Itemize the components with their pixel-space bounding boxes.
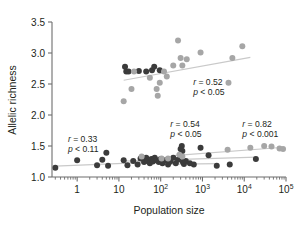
annotation-p-label: p < 0.001 [241, 129, 278, 139]
data-point [206, 152, 212, 158]
data-point [179, 62, 185, 68]
x-tick-label: 10 [113, 184, 125, 195]
data-point [94, 162, 100, 168]
y-tick-label: 2.0 [31, 110, 45, 121]
y-tick-label: 2.5 [31, 79, 45, 90]
y-tick-label: 3.5 [31, 17, 45, 28]
data-point [74, 157, 80, 163]
x-tick-labels: 110102103104105 [74, 183, 293, 195]
x-axis-title: Population size [133, 204, 204, 216]
data-point [165, 155, 171, 161]
data-point [99, 157, 105, 163]
data-point [227, 162, 233, 168]
x-tick-label: 102 [153, 183, 168, 195]
data-point [154, 86, 160, 92]
statistic-annotations-group: r = 0.33p < 0.11r = 0.54p < 0.05r = 0.82… [67, 77, 279, 153]
data-point [214, 163, 220, 169]
data-point [170, 62, 176, 68]
annotation-p-label: p < 0.05 [192, 87, 225, 97]
data-point [157, 80, 163, 86]
annotation-r-label: r = 0.82 [242, 119, 272, 129]
data-point [121, 98, 127, 104]
data-point [225, 80, 231, 86]
data-point [261, 143, 267, 149]
annotation-stat-upper: r = 0.52p < 0.05 [192, 77, 225, 97]
annotation-stat-left: r = 0.33p < 0.11 [67, 134, 99, 154]
data-point [131, 69, 137, 75]
data-point [253, 156, 259, 162]
series-upper-cluster-dark [122, 64, 163, 75]
scatter-plot-figure: 1.01.52.02.53.03.5 110102103104105 Allel… [0, 0, 296, 226]
data-point [105, 163, 111, 169]
data-point [121, 157, 127, 163]
data-point [178, 55, 184, 61]
annotation-r-label: r = 0.54 [170, 119, 200, 129]
x-tick-label: 1 [74, 184, 80, 195]
data-point [143, 69, 149, 75]
y-ticks-group [48, 22, 52, 177]
plot-canvas: 1.01.52.02.53.03.5 110102103104105 Allel… [0, 0, 296, 226]
y-tick-labels: 1.01.52.02.53.03.5 [31, 17, 45, 183]
data-point [52, 165, 58, 171]
x-tick-label: 105 [279, 183, 294, 195]
data-point [147, 75, 153, 81]
data-point [128, 86, 134, 92]
data-point [247, 145, 253, 151]
data-point [184, 56, 190, 62]
x-ticks-group [55, 177, 286, 182]
data-point [198, 49, 204, 55]
data-point [151, 64, 157, 70]
data-point [135, 162, 141, 168]
x-tick-label: 104 [237, 183, 252, 195]
data-point [179, 154, 185, 160]
annotation-p-label: p < 0.11 [67, 144, 99, 154]
annotation-p-label: p < 0.05 [169, 129, 202, 139]
data-point [280, 146, 286, 152]
y-tick-label: 3.0 [31, 48, 45, 59]
data-point [159, 155, 165, 161]
data-point [198, 145, 204, 151]
data-point [124, 162, 130, 168]
y-tick-label: 1.5 [31, 141, 45, 152]
data-point [126, 69, 132, 75]
annotation-stat-mid: r = 0.54p < 0.05 [169, 119, 202, 139]
data-point [175, 38, 181, 44]
data-point [225, 147, 231, 153]
data-point [139, 154, 145, 160]
y-axis-title: Allelic richness [6, 65, 18, 134]
data-point [269, 144, 275, 150]
y-tick-label: 1.0 [31, 172, 45, 183]
data-point [239, 43, 245, 49]
x-tick-label: 103 [195, 183, 210, 195]
data-point [155, 93, 161, 99]
annotation-stat-right: r = 0.82p < 0.001 [241, 119, 278, 139]
data-point [229, 55, 235, 61]
data-point [191, 162, 197, 168]
data-point [103, 150, 109, 156]
data-point [164, 74, 170, 80]
annotation-r-label: r = 0.33 [68, 134, 98, 144]
annotation-r-label: r = 0.52 [193, 77, 223, 87]
